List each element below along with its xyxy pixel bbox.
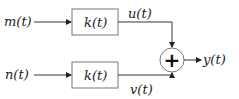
input-m-label: m(t) xyxy=(4,14,32,29)
plus-icon: + xyxy=(164,48,181,72)
signal-v-label: v(t) xyxy=(130,82,153,97)
block-diagram: m(t) k(t) u(t) + y(t) n(t) k(t) v(t) xyxy=(0,0,239,99)
signal-u-label: u(t) xyxy=(128,6,152,21)
block-k1-label: k(t) xyxy=(84,15,107,30)
line-v xyxy=(118,73,172,75)
input-n-label: n(t) xyxy=(5,67,29,82)
output-y-label: y(t) xyxy=(202,52,226,67)
block-k2-label: k(t) xyxy=(84,68,107,83)
arrow-u-to-summer xyxy=(118,22,172,47)
